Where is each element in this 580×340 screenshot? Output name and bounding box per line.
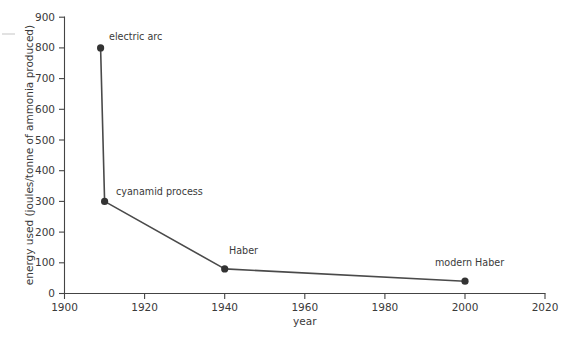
y-tick-label: 0	[48, 287, 55, 299]
y-tick-label: 300	[35, 195, 55, 207]
data-point-electric-arc	[97, 44, 104, 51]
annotation-haber: Haber	[229, 245, 258, 256]
x-tick-label: 1940	[211, 301, 238, 313]
annotation-electric-arc: electric arc	[109, 31, 162, 42]
y-axis-ticks: 0 100 200 300 400 500 600 700 800 900	[35, 11, 65, 299]
x-tick-label: 1980	[372, 301, 399, 313]
axes-group	[65, 17, 546, 294]
annotation-cyanamid-process: cyanamid process	[116, 186, 203, 197]
y-tick-label: 200	[35, 226, 55, 238]
data-point-annotations: electric arc cyanamid process Haber mode…	[109, 31, 504, 268]
data-point-cyanamid-process	[101, 198, 108, 205]
data-point-modern-haber	[461, 278, 468, 285]
y-tick-label: 900	[35, 11, 55, 23]
x-tick-label: 2020	[532, 301, 559, 313]
x-axis-title: year	[293, 315, 317, 327]
y-tick-label: 500	[35, 134, 55, 146]
annotation-modern-haber: modern Haber	[435, 257, 504, 268]
y-tick-label: 600	[35, 103, 55, 115]
x-tick-label: 1920	[131, 301, 158, 313]
line-chart-canvas: 0 100 200 300 400 500 600 700 800 900 19…	[0, 0, 580, 340]
y-tick-label: 700	[35, 72, 55, 84]
chart-figure: 0 100 200 300 400 500 600 700 800 900 19…	[0, 0, 580, 340]
series-polyline	[101, 48, 465, 281]
x-axis-ticks: 1900 1920 1940 1960 1980 2000 2020	[51, 294, 558, 314]
y-tick-label: 100	[35, 256, 55, 268]
y-tick-label: 400	[35, 164, 55, 176]
y-tick-label: 800	[35, 41, 55, 53]
x-tick-label: 1900	[51, 301, 78, 313]
data-point-haber	[221, 265, 228, 272]
data-series-energy-used	[97, 44, 469, 285]
y-axis-title: energy used (joules/tonne of ammonia pro…	[23, 25, 35, 285]
x-tick-label: 2000	[452, 301, 479, 313]
x-tick-label: 1960	[291, 301, 318, 313]
